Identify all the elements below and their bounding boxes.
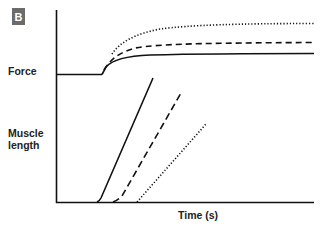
diagram-canvas [0,0,320,226]
force-traces [56,24,314,75]
length-line-dotted [137,124,206,202]
force-curve-dotted [112,24,314,55]
length-line-solid [97,78,153,202]
muscle-length-traces [97,78,206,202]
force-curve-solid [102,54,314,75]
